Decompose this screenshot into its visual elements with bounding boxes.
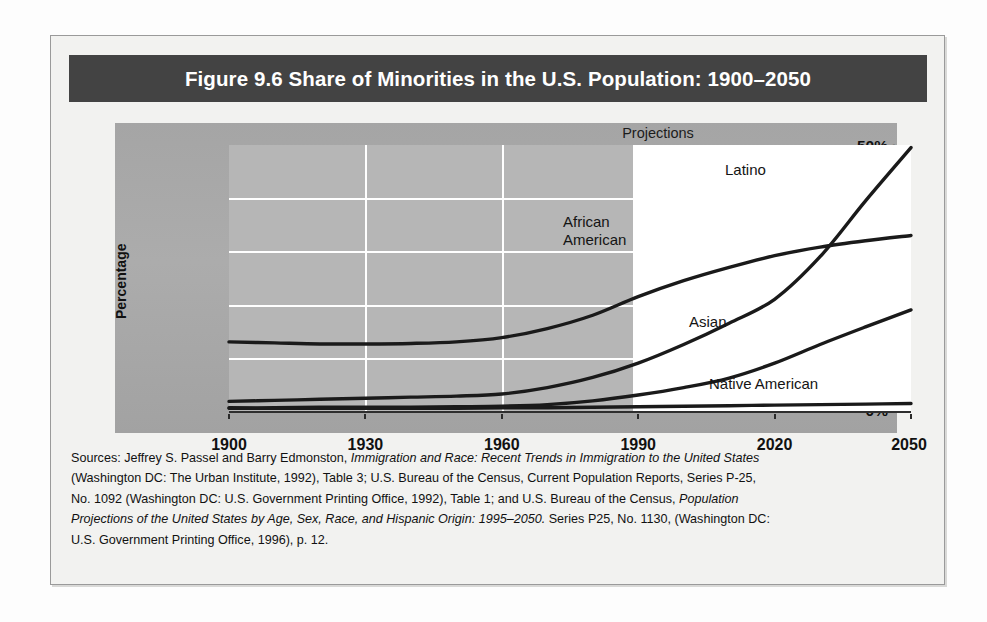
x-tickmark-2020 xyxy=(774,414,776,419)
figure-title: Figure 9.6 Share of Minorities in the U.… xyxy=(185,67,811,91)
sources-line-3-italic: Population xyxy=(679,492,739,506)
series-label-african-american-line1: African xyxy=(563,213,610,230)
chart-panel: Projections Percentage 50%· 40%· 30%· 20… xyxy=(115,123,897,433)
figure-page: Figure 9.6 Share of Minorities in the U.… xyxy=(0,0,987,622)
x-tickmark-1960 xyxy=(501,414,503,419)
x-axis-baseline xyxy=(229,411,911,413)
sources-line-1-italic: Immigration and Race: Recent Trends in I… xyxy=(351,451,760,465)
x-tickmark-1930 xyxy=(364,414,366,419)
series-label-native-american: Native American xyxy=(709,375,818,393)
series-line-asian xyxy=(229,310,911,408)
series-label-latino: Latino xyxy=(725,161,766,179)
sources-line-2: (Washington DC: The Urban Institute, 199… xyxy=(71,468,923,488)
sources-line-1-plain: Sources: Jeffrey S. Passel and Barry Edm… xyxy=(71,451,351,465)
series-line-african-american xyxy=(229,235,911,344)
series-label-asian: Asian xyxy=(689,313,727,331)
sources-line-3-plain: No. 1092 (Washington DC: U.S. Government… xyxy=(71,492,679,506)
series-lines xyxy=(229,145,911,411)
series-label-african-american-line2: American xyxy=(563,231,626,248)
series-label-african-american: African American xyxy=(563,213,626,248)
x-tickmark-1900 xyxy=(228,414,230,419)
projections-annotation: Projections xyxy=(115,125,897,141)
projections-annotation-text: Projections xyxy=(622,125,694,141)
sources-block: Sources: Jeffrey S. Passel and Barry Edm… xyxy=(71,448,923,550)
sources-line-4-plain: Series P25, No. 1130, (Washington DC: xyxy=(545,512,770,526)
series-line-latino xyxy=(229,148,911,402)
sources-line-4-italic: Projections of the United States by Age,… xyxy=(71,512,545,526)
figure-frame: Figure 9.6 Share of Minorities in the U.… xyxy=(50,35,945,585)
sources-line-3: No. 1092 (Washington DC: U.S. Government… xyxy=(71,489,923,509)
y-axis-title: Percentage xyxy=(113,244,129,319)
x-tickmark-1990 xyxy=(637,414,639,419)
figure-title-bar: Figure 9.6 Share of Minorities in the U.… xyxy=(69,55,927,102)
plot-area xyxy=(229,145,911,411)
x-tickmark-2050 xyxy=(910,414,912,419)
sources-line-4: Projections of the United States by Age,… xyxy=(71,509,923,529)
sources-line-1: Sources: Jeffrey S. Passel and Barry Edm… xyxy=(71,448,923,468)
sources-line-5: U.S. Government Printing Office, 1996), … xyxy=(71,530,923,550)
